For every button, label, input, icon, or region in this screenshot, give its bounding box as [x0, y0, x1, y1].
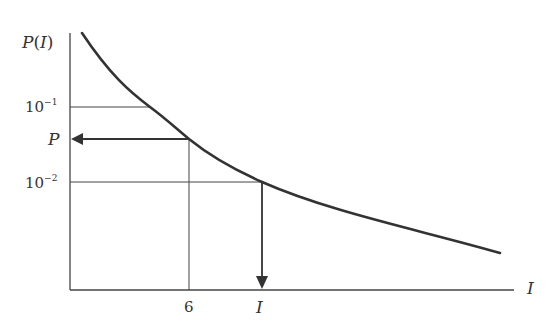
diagram-canvas: P(I) 10−1 P 10−2 6 I I	[0, 0, 553, 330]
i-arrowhead-icon	[256, 276, 268, 289]
y-tick-10-minus-2: 10−2	[25, 173, 57, 192]
y-tick-10-minus-1: 10−1	[25, 97, 57, 116]
y-axis-label: P(I)	[21, 32, 53, 52]
p-arrowhead-icon	[71, 133, 83, 145]
p-marker-label: P	[47, 129, 60, 149]
x-axis-label: I	[526, 278, 534, 298]
x-tick-6: 6	[184, 298, 194, 316]
probability-curve	[82, 33, 500, 253]
x-tick-i: I	[255, 297, 263, 317]
